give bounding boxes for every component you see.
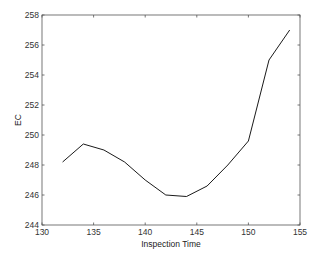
axes-box: [42, 15, 300, 225]
series-line: [63, 30, 290, 197]
y-axis-label: EC: [13, 114, 23, 126]
y-tick-label: 250: [25, 130, 39, 140]
y-tick-label: 244: [25, 220, 39, 230]
y-tick-label: 258: [25, 10, 39, 20]
y-tick-label: 246: [25, 190, 39, 200]
plot-area: [42, 15, 300, 225]
x-tick-label: 150: [241, 227, 255, 237]
y-tick-label: 252: [25, 100, 39, 110]
y-axis: 244246248250252254256258: [25, 10, 300, 230]
x-tick-label: 140: [138, 227, 152, 237]
line-chart: 130135140145150155 244246248250252254256…: [0, 0, 323, 259]
x-axis-label: Inspection Time: [141, 239, 201, 249]
x-tick-label: 155: [293, 227, 307, 237]
y-tick-label: 254: [25, 70, 39, 80]
x-tick-label: 145: [190, 227, 204, 237]
x-axis: 130135140145150155: [35, 15, 307, 237]
y-tick-label: 256: [25, 40, 39, 50]
y-tick-label: 248: [25, 160, 39, 170]
x-tick-label: 135: [87, 227, 101, 237]
